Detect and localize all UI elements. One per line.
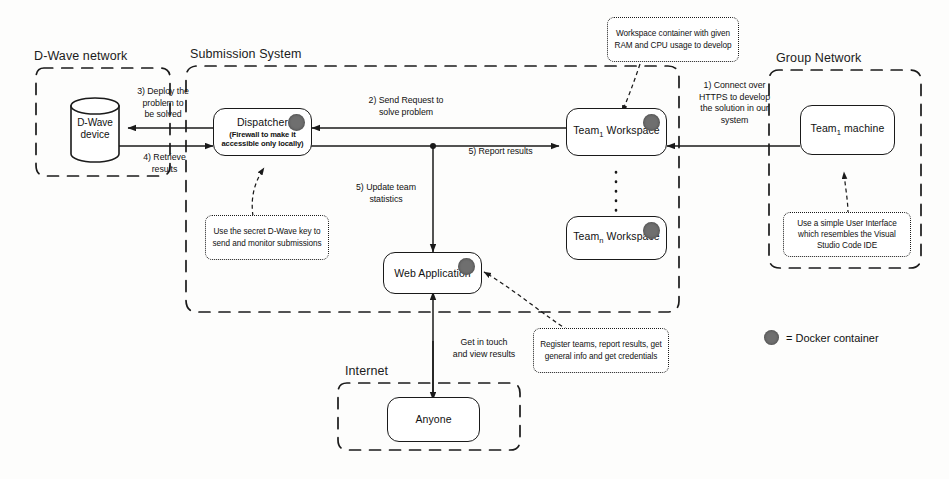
edge-label-send-request: 2) Send Request to solve problem	[336, 95, 476, 118]
docker-container-icon	[643, 114, 660, 131]
legend: = Docker container	[764, 330, 879, 345]
node-anyone[interactable]: Anyone	[387, 397, 480, 442]
node-dispatcher[interactable]: Dispatcher (Firewall to make it accessib…	[213, 108, 312, 156]
edge-label-report-results: 5) Report results	[433, 146, 568, 158]
node-teamn-workspace[interactable]: Teamn Workspace	[566, 216, 667, 260]
edge-label-deploy-problem: 3) Deploy the problem to be solved	[118, 86, 208, 121]
zone-label-group-network: Group Network	[776, 51, 861, 65]
team1-machine-title: Team1 machine	[811, 122, 885, 138]
anyone-title: Anyone	[415, 413, 451, 425]
callout-workspace-container-note: Workspace container with given RAM and C…	[607, 17, 739, 62]
node-web-application[interactable]: Web Application	[383, 252, 482, 294]
edge-label-update-stats: 5) Update team statistics	[337, 182, 435, 205]
edge-label-get-in-touch: Get in touch and view results	[434, 337, 534, 360]
leader-web-app-note	[484, 272, 568, 330]
docker-container-icon	[764, 330, 779, 345]
leader-dwave-key-note	[252, 168, 264, 216]
edge-label-retrieve-results: 4) Retrieve results	[122, 152, 207, 175]
zone-label-submission-system: Submission System	[190, 47, 301, 61]
callout-web-app-note: Register teams, report results, get gene…	[533, 328, 669, 373]
legend-label: = Docker container	[786, 332, 879, 344]
callout-vscode-note: Use a simple User Interface which resemb…	[783, 212, 911, 257]
zone-label-internet: Internet	[345, 364, 388, 378]
docker-container-icon	[643, 222, 660, 239]
node-team1-machine[interactable]: Team1 machine	[800, 105, 895, 155]
dispatcher-subtitle: (Firewall to make it accessible only loc…	[218, 130, 308, 149]
callout-dwave-key-note: Use the secret D-Wave key to send and mo…	[205, 215, 329, 260]
docker-container-icon	[288, 114, 305, 131]
architecture-diagram: D-Wave network Submission System Group N…	[0, 0, 949, 479]
dispatcher-title: Dispatcher	[237, 116, 288, 128]
leader-vscode-note	[844, 172, 848, 214]
leader-workspace-container-note	[622, 64, 640, 112]
docker-container-icon	[458, 258, 475, 275]
edge-label-connect-https: 1) Connect over HTTPS to develop the sol…	[682, 80, 787, 126]
zone-label-dwave-network: D-Wave network	[34, 49, 127, 63]
node-team1-workspace[interactable]: Team1 Workspace	[566, 108, 667, 156]
